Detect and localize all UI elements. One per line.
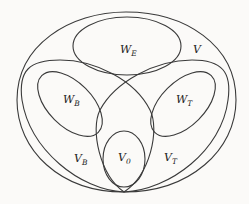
label-V-T: VT bbox=[164, 151, 178, 166]
diagram-canvas: WE V WB WT VB V0 VT bbox=[0, 0, 249, 204]
label-V: V bbox=[193, 43, 202, 56]
set-V-B-boundary bbox=[21, 60, 154, 192]
set-V-T-boundary bbox=[96, 60, 229, 192]
label-W-B: WB bbox=[63, 93, 80, 108]
label-W-T: WT bbox=[176, 93, 193, 108]
set-diagram: WE V WB WT VB V0 VT bbox=[0, 0, 249, 204]
label-V-0: V0 bbox=[118, 151, 131, 166]
label-W-E: WE bbox=[120, 43, 137, 58]
label-V-B: VB bbox=[74, 152, 88, 167]
